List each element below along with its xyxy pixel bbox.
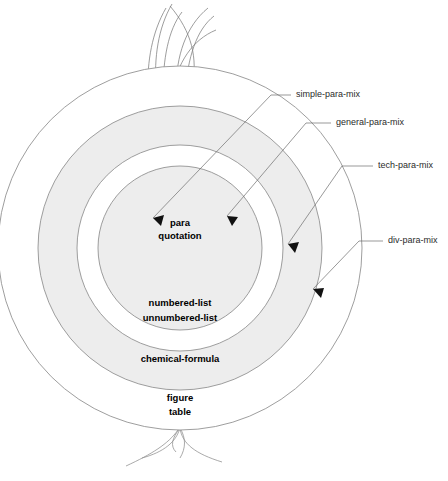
onion-diagram-figure: para quotation numbered-list unnumbered-… xyxy=(0,0,448,481)
ring-2-label-line-1: chemical-formula xyxy=(141,353,220,364)
callout-label-tech-para-mix: tech-para-mix xyxy=(378,160,434,170)
root-strand-2 xyxy=(180,428,222,462)
onion-diagram-canvas: para quotation numbered-list unnumbered-… xyxy=(0,0,448,481)
core-label-line-1: para xyxy=(170,217,191,228)
callout-label-div-para-mix: div-para-mix xyxy=(388,235,438,245)
ring-1-label-line-2: unnumbered-list xyxy=(143,312,218,323)
core-label-line-2: quotation xyxy=(158,230,201,241)
callout-label-general-para-mix: general-para-mix xyxy=(336,117,405,127)
ring-3-label-line-2: table xyxy=(169,406,191,417)
ring-3-label-line-1: figure xyxy=(167,392,193,403)
root-group xyxy=(126,428,222,466)
ring-1-label-line-1: numbered-list xyxy=(149,297,213,308)
root-strand-1 xyxy=(142,428,180,458)
root-strand-5 xyxy=(126,430,178,466)
callout-label-simple-para-mix: simple-para-mix xyxy=(296,89,361,99)
